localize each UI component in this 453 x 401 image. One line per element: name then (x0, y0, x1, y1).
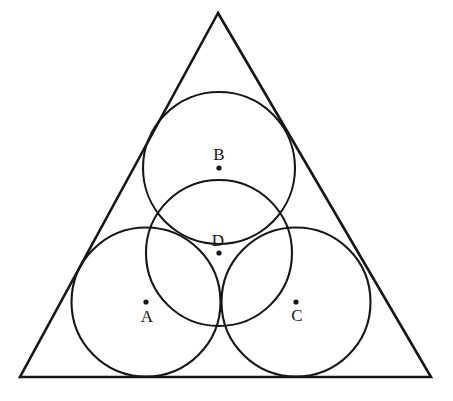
center-dot-d (216, 250, 221, 255)
center-dot-b (216, 165, 221, 170)
point-label-a: A (141, 308, 153, 325)
center-dot-c (293, 299, 298, 304)
figure-canvas (0, 0, 453, 401)
equilateral-triangle (20, 13, 431, 377)
point-label-c: C (291, 307, 303, 324)
center-dot-a (143, 299, 148, 304)
point-label-b: B (213, 146, 225, 163)
point-label-d: D (212, 232, 224, 249)
geometry-figure: A B C D (0, 0, 453, 401)
